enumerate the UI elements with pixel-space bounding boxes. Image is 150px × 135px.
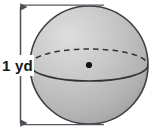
sphere-figure: 1 yd bbox=[0, 0, 150, 135]
dimension-label: 1 yd bbox=[1, 55, 34, 76]
sphere-center-point bbox=[86, 62, 92, 68]
